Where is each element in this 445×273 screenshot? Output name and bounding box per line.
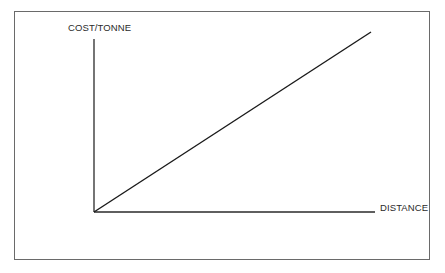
y-axis-label: COST/TONNE xyxy=(68,22,131,33)
x-axis-label: DISTANCE xyxy=(380,202,428,213)
cost-line xyxy=(94,32,371,212)
chart-plot-area xyxy=(0,0,445,273)
